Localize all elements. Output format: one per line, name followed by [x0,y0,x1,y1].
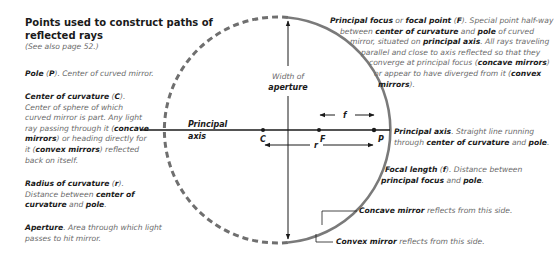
principal-axis-label-1: Principal [188,120,228,129]
aperture-label-2: aperture [268,83,308,92]
r-label: r [314,141,319,150]
heading-title-line2: reflected rays [25,30,213,43]
concave-mirror-note: Concave mirror reflects from this side. [359,206,512,217]
definition-principal-axis: Principal axis. Straight line running th… [394,127,549,148]
aperture-label-1: Width of [272,72,305,81]
definition-focal-length: Focal length (f). Distance between princ… [381,165,522,186]
point-c-dot [261,128,265,132]
heading-subtitle: (See also page 52.) [25,42,99,51]
f-label: f [343,111,348,120]
principal-axis-label-2: axis [188,132,206,141]
point-f-dot [317,128,321,132]
definition-center-of-curvature: Center of curvature (C). Center of spher… [25,92,149,166]
convex-mirror-note: Convex mirror reflects from this side. [336,237,485,248]
definition-principal-focus: Principal focus or focal point (F). Spec… [330,16,553,90]
point-c-label: C [260,135,266,144]
definition-pole: Pole (P). Center of curved mirror. [25,69,175,80]
heading-title-line1: Points used to construct paths of [25,17,213,30]
point-f-label: F [320,135,326,144]
definition-aperture: Aperture. Area through which light passe… [25,223,165,244]
heading-title: Points used to construct paths of reflec… [25,17,213,42]
point-p-label: P [378,135,384,144]
point-p-dot [372,128,376,132]
definition-radius-of-curvature: Radius of curvature (r). Distance betwee… [25,179,155,211]
